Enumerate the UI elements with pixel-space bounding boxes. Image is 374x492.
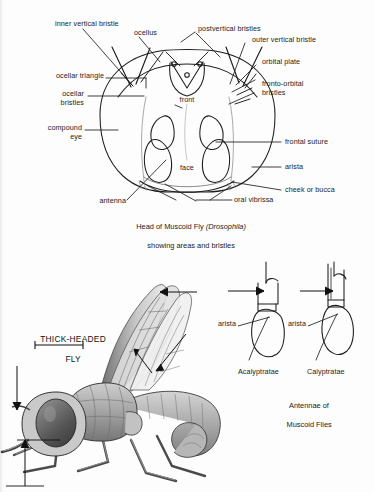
label-arista-calyptratae: arista [276, 320, 306, 328]
label-acalyptratae: Acalyptratae [238, 368, 279, 376]
label-calyptratae: Calyptratae [307, 368, 345, 376]
antennae-caption-line2: Muscoid Flies [287, 420, 332, 429]
antennae-pointer-arrows [228, 287, 333, 295]
anatomy-plate: inner vertical bristle ocellus postverti… [0, 0, 374, 492]
label-arista-acalyptratae: arista [206, 320, 236, 328]
antennae-caption-line1: Antennae of [289, 401, 329, 410]
antennae-figure-caption: Antennae of Muscoid Flies [255, 392, 355, 439]
